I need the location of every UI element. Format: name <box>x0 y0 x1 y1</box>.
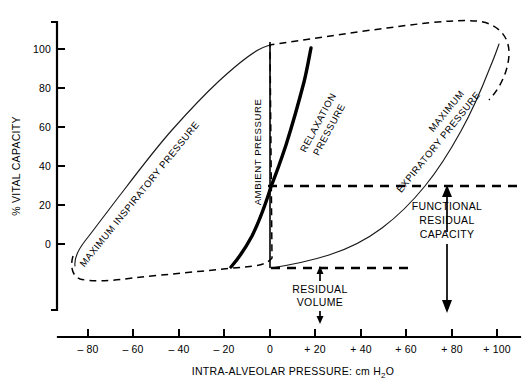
frc-label-line3: CAPACITY <box>420 228 475 240</box>
y-tick-label-20: 20 <box>39 199 51 211</box>
residual-volume-label-line1: RESIDUAL <box>292 283 347 295</box>
y-tick-label-60: 60 <box>39 121 51 133</box>
max-inspiratory-pressure-label: MAXIMUM INSPIRATORY PRESSURE <box>77 119 201 269</box>
residual-volume-arrow-down-head <box>317 316 324 324</box>
y-tick-label-0: 0 <box>45 238 51 250</box>
x-tick-label-plus80: + 80 <box>441 343 463 355</box>
x-tick-label-minus20: – 20 <box>213 343 234 355</box>
y-tick-label-40: 40 <box>39 160 51 172</box>
x-tick-label-plus100: + 100 <box>483 343 511 355</box>
ambient-pressure-label: AMBIENT PRESSURE <box>252 99 263 206</box>
x-tick-label-plus60: + 60 <box>395 343 417 355</box>
functional-residual-capacity-annotation: FUNCTIONAL RESIDUAL CAPACITY <box>412 185 483 313</box>
x-axis: – 80 – 60 – 40 – 20 0 + 20 + 40 + 60 + 8… <box>58 329 520 380</box>
y-axis-title: % VITAL CAPACITY <box>10 116 22 216</box>
max-expiratory-pressure-label-line2: EXPIRATORY PRESSURE <box>394 89 482 194</box>
x-tick-label-minus40: – 40 <box>168 343 189 355</box>
x-tick-label-plus40: + 40 <box>350 343 372 355</box>
x-axis-title: INTRA-ALVEOLAR PRESSURE: cm H2O <box>192 365 395 380</box>
chart-canvas: 100 80 60 40 20 0 % VITAL CAPACITY – 80 … <box>0 0 525 384</box>
x-tick-label-minus60: – 60 <box>122 343 143 355</box>
x-tick-label-0: 0 <box>267 343 273 355</box>
frc-label-line2: RESIDUAL <box>419 214 474 226</box>
frc-label-line1: FUNCTIONAL <box>412 200 483 212</box>
residual-volume-label-line2: VOLUME <box>297 296 343 308</box>
pressure-volume-envelope <box>72 21 509 281</box>
residual-volume-annotation: RESIDUAL VOLUME <box>292 266 347 324</box>
x-tick-label-plus20: + 20 <box>304 343 326 355</box>
pressure-volume-diagram: 100 80 60 40 20 0 % VITAL CAPACITY – 80 … <box>0 0 525 384</box>
x-tick-label-minus80: – 80 <box>77 343 98 355</box>
x-axis-title-tail: O <box>386 365 394 377</box>
y-tick-label-80: 80 <box>39 82 51 94</box>
frc-arrow-down-head <box>442 300 452 313</box>
y-tick-label-100: 100 <box>33 43 51 55</box>
x-axis-title-main: INTRA-ALVEOLAR PRESSURE: cm H <box>192 365 381 377</box>
y-axis: 100 80 60 40 20 0 % VITAL CAPACITY <box>10 22 65 310</box>
